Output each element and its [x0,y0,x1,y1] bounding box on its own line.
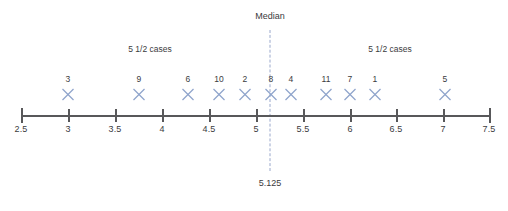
axis-tick-label: 5.5 [297,124,310,134]
x-marker-icon [369,88,382,101]
data-point-label: 3 [66,74,71,84]
axis-tick [162,109,164,122]
median-value-label: 5.125 [259,178,282,188]
x-marker-icon [133,88,146,101]
axis-line [21,115,489,117]
data-point-label: 5 [443,74,448,84]
axis-tick-label: 6.5 [390,124,403,134]
axis-tick [303,109,305,122]
dot-plot-figure: Median 5.125 5 1/2 cases5 1/2 cases 3961… [0,0,508,211]
axis-tick [209,109,211,122]
axis-tick [443,109,445,122]
axis-tick-label: 3.5 [109,124,122,134]
data-point-label: 6 [186,74,191,84]
axis-tick [489,108,491,123]
axis-tick [68,109,70,122]
x-marker-icon [344,88,357,101]
axis-tick-label: 5 [253,124,258,134]
axis-tick [21,108,23,123]
axis-tick-label: 3 [65,124,70,134]
axis-tick-label: 7 [440,124,445,134]
x-marker-icon [239,88,252,101]
axis-tick [350,109,352,122]
axis-tick-label: 4 [159,124,164,134]
axis-tick-label: 6 [347,124,352,134]
x-marker-icon [265,88,278,101]
data-point-label: 4 [289,74,294,84]
cases-annotation: 5 1/2 cases [128,44,171,54]
x-marker-icon [320,88,333,101]
data-point-label: 9 [137,74,142,84]
x-marker-icon [285,88,298,101]
x-marker-icon [62,88,75,101]
x-marker-icon [439,88,452,101]
median-title: Median [255,11,285,21]
axis-tick-label: 2.5 [15,124,28,134]
cases-annotation: 5 1/2 cases [368,44,411,54]
data-point-label: 7 [348,74,353,84]
axis-tick [396,109,398,122]
x-marker-icon [182,88,195,101]
data-point-label: 10 [214,74,224,84]
axis-tick-label: 4.5 [203,124,216,134]
data-point-label: 1 [373,74,378,84]
axis-tick [256,109,258,122]
data-point-label: 8 [269,74,274,84]
data-point-label: 2 [243,74,248,84]
axis-tick [115,109,117,122]
x-marker-icon [213,88,226,101]
axis-tick-label: 7.5 [483,124,496,134]
data-point-label: 11 [321,74,330,84]
